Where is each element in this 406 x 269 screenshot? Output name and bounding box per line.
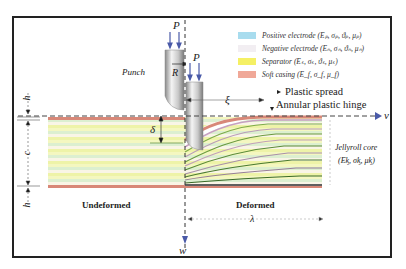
legend-label: Negative electrode (Eₙ, σₙ, ϑₙ, μₙ): [262, 44, 364, 53]
thickness-dimensions: [17, 93, 40, 205]
lambda-label: λ: [250, 214, 254, 224]
swatch-casing-icon: [238, 71, 256, 78]
punch-left: [165, 50, 184, 110]
h-top-label: h: [22, 96, 32, 101]
w-axis-arrow-icon: [182, 236, 188, 244]
xi-label: ξ: [225, 94, 230, 105]
legend-item-negative-electrode: Negative electrode (Eₙ, σₙ, ϑₙ, μₙ): [238, 42, 364, 55]
v-axis-label: v: [384, 110, 389, 121]
legend: Positive electrode (Eₚ, σₚ, ϑₚ, μₚ) Nega…: [238, 29, 364, 81]
delta-label: δ: [150, 124, 155, 135]
c-label: c: [22, 151, 32, 155]
swatch-negative-icon: [238, 45, 256, 52]
legend-item-soft-casing: Soft casing (E_f, σ_f, μ_f): [238, 68, 364, 81]
punch-label: Punch: [122, 68, 145, 77]
jellyroll-label: Jellyroll core: [335, 144, 377, 152]
deformed-block: [185, 117, 322, 188]
load-arrows-left-icon: [168, 32, 181, 48]
undeformed-block: [48, 117, 185, 188]
deformed-label: Deformed: [236, 201, 274, 210]
legend-label: Positive electrode (Eₚ, σₚ, ϑₚ, μₚ): [262, 31, 362, 40]
lambda-dimension: [188, 217, 323, 221]
jellyroll-params-label: (Eᶄ, σᶄ, μᶄ): [338, 157, 375, 165]
spread-marker-icon: [277, 90, 281, 94]
hinge-marker-icon: [270, 107, 274, 111]
legend-item-separator: Separator (Eₛ, σₛ, ϑₛ, μₛ): [238, 55, 364, 68]
legend-item-positive-electrode: Positive electrode (Eₚ, σₚ, ϑₚ, μₚ): [238, 29, 364, 42]
swatch-separator-icon: [238, 58, 256, 65]
radius-label: R: [172, 68, 178, 78]
v-axis-arrow-icon: [375, 112, 382, 120]
undeformed-label: Undeformed: [82, 201, 131, 210]
legend-label: Separator (Eₛ, σₛ, ϑₛ, μₛ): [262, 57, 338, 66]
w-axis-label: w: [179, 245, 186, 256]
legend-label: Soft casing (E_f, σ_f, μ_f): [262, 70, 339, 79]
h-bottom-label: h: [22, 203, 32, 208]
swatch-positive-icon: [238, 32, 256, 39]
annular-hinge-label: Annular plastic hinge: [276, 100, 366, 111]
load-label-right: P: [193, 52, 200, 63]
load-arrows-right-icon: [188, 63, 201, 80]
load-label-left: P: [173, 20, 180, 31]
plastic-spread-label: Plastic spread: [285, 87, 343, 98]
